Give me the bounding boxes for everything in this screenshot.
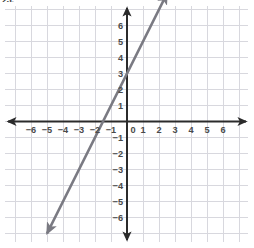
y-tick-label: −5	[113, 197, 123, 207]
x-tick-label: 2	[156, 125, 161, 135]
x-tick-label: −5	[42, 125, 52, 135]
y-tick-label: −6	[113, 213, 123, 223]
y-tick-label: −4	[113, 181, 124, 191]
problem-number-label: 23.	[2, 0, 26, 2]
x-tick-label: 3	[172, 125, 177, 135]
x-tick-label: −2	[90, 125, 100, 135]
x-tick-label: −6	[26, 125, 36, 135]
y-tick-label: 3	[118, 69, 123, 79]
x-tick-label: −3	[74, 125, 84, 135]
x-tick-label: 5	[204, 125, 209, 135]
y-tick-label: 4	[118, 53, 124, 63]
x-tick-label: −4	[58, 125, 69, 135]
y-tick-label: 2	[118, 85, 123, 95]
x-tick-label: 4	[188, 125, 194, 135]
y-tick-label: −1	[113, 133, 123, 143]
y-tick-label: −3	[113, 165, 123, 175]
x-tick-label: 0	[130, 125, 135, 135]
y-tick-label: 1	[118, 101, 123, 111]
x-tick-label: 1	[140, 125, 145, 135]
y-tick-label: 5	[118, 37, 123, 47]
x-tick-label: 6	[220, 125, 225, 135]
y-tick-label: 6	[118, 21, 123, 31]
cartesian-graph: −6−5−4−3−2−10123456 −6−5−4−3−2−1123456	[0, 0, 254, 248]
y-tick-label: −2	[113, 149, 123, 159]
coordinate-plane-figure: 23. −6−5−4−3−2−10123456 −6−5−4−3−2−11234…	[0, 0, 254, 248]
